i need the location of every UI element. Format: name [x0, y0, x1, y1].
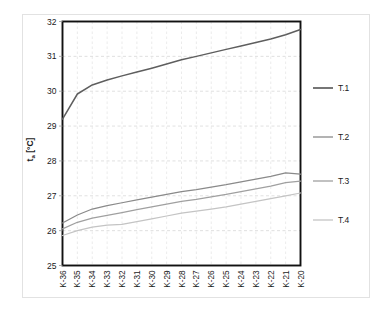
y-tick-label: 29	[47, 121, 57, 131]
legend-label-t-2: T.2	[338, 132, 350, 142]
x-tick-label: K-25	[222, 270, 231, 288]
y-tick-label: 31	[47, 51, 57, 61]
y-tick-label: 26	[47, 226, 57, 236]
y-axis-title-text: ta [°C]	[25, 137, 36, 161]
x-tick-label: K-28	[178, 270, 187, 288]
x-tick-label: K-29	[163, 270, 172, 288]
chart-legend: T.1T.2T.3T.4	[313, 83, 350, 225]
x-tick-label: K-26	[207, 270, 216, 288]
x-tick-label: K-30	[148, 270, 157, 288]
chart-figure: 2526272829303132 K-36K-35K-34K-33K-32K-3…	[0, 0, 374, 318]
x-tick-label: K-36	[59, 270, 68, 288]
y-axis-title: ta [°C]	[25, 137, 36, 161]
x-tick-label: K-31	[133, 270, 142, 288]
legend-label-t-1: T.1	[338, 83, 350, 93]
grid-layer	[63, 22, 301, 266]
y-tick-label: 28	[47, 156, 57, 166]
y-tick-label: 27	[47, 191, 57, 201]
series-line-t-4	[63, 193, 301, 236]
x-tick-label: K-22	[267, 270, 276, 288]
y-tick-label: 30	[47, 86, 57, 96]
y-tick-label: 25	[47, 261, 57, 271]
x-tick-label: K-27	[192, 270, 201, 288]
x-tick-label: K-34	[88, 270, 97, 288]
x-tick-label: K-20	[297, 270, 306, 288]
y-axis-tick-labels: 2526272829303132	[47, 17, 62, 271]
x-tick-label: K-32	[118, 270, 127, 288]
x-tick-label: K-35	[73, 270, 82, 288]
legend-label-t-3: T.3	[338, 176, 350, 186]
line-chart: 2526272829303132 K-36K-35K-34K-33K-32K-3…	[0, 0, 374, 318]
x-tick-label: K-23	[252, 270, 261, 288]
y-tick-label: 32	[47, 17, 57, 27]
legend-label-t-4: T.4	[338, 215, 350, 225]
x-tick-label: K-33	[103, 270, 112, 288]
x-axis-tick-labels: K-36K-35K-34K-33K-32K-31K-30K-29K-28K-27…	[59, 270, 306, 288]
x-tick-label: K-24	[237, 270, 246, 288]
x-tick-label: K-21	[282, 270, 291, 288]
